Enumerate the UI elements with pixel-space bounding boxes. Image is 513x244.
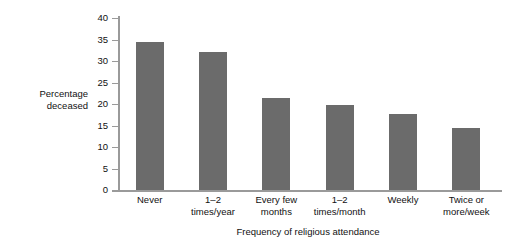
x-category-label: Twice or more/week — [435, 194, 498, 217]
bar — [199, 52, 227, 190]
bar-chart-figure: Percentage deceased 0510152025303540 Nev… — [0, 0, 513, 244]
x-category-label: Weekly — [371, 194, 434, 206]
bar — [452, 128, 480, 190]
x-category-label: 1–2 times/year — [181, 194, 244, 217]
x-category-label: 1–2 times/month — [308, 194, 371, 217]
bars-layer — [0, 0, 513, 191]
bar — [326, 105, 354, 190]
x-category-label: Every few months — [245, 194, 308, 217]
bar — [262, 98, 290, 190]
bar — [389, 114, 417, 190]
bar — [136, 42, 164, 190]
x-axis-title: Frequency of religious attendance — [118, 226, 498, 237]
x-category-label: Never — [118, 194, 181, 206]
